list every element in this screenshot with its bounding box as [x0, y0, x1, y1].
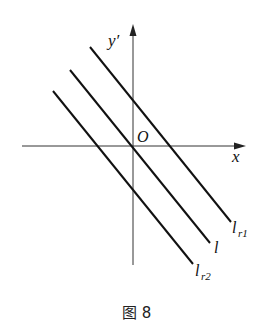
y-axis-arrow-icon [130, 24, 137, 36]
label-l-main: l [214, 239, 219, 256]
label-lr2: l r2 [195, 262, 211, 282]
label-lr1: l r1 [232, 219, 248, 239]
x-axis-label: x [231, 147, 240, 166]
line-lr1 [90, 47, 231, 222]
origin-label: O [137, 128, 149, 145]
figure-caption: 图 8 [122, 304, 151, 322]
label-lr1-main: l [232, 219, 237, 236]
line-lr2 [53, 91, 193, 264]
line-l [70, 70, 210, 243]
label-l: l [214, 239, 219, 256]
label-lr2-sub: r2 [201, 270, 211, 282]
label-lr2-main: l [195, 262, 200, 279]
diagram-canvas: y′ O x l r1 l l r2 图 8 [0, 0, 270, 328]
label-lr1-sub: r1 [238, 227, 248, 239]
y-axis-label: y′ [106, 31, 120, 50]
